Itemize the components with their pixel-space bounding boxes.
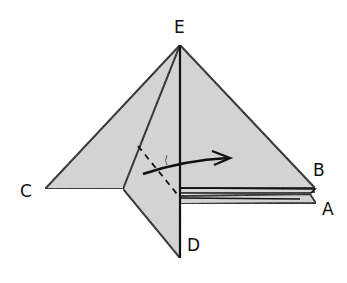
label-c: C — [20, 181, 32, 201]
label-e: E — [174, 17, 185, 37]
label-d: D — [187, 235, 200, 255]
label-b: B — [313, 160, 325, 180]
origami-diagram: E C D B A — [0, 0, 347, 283]
label-a: A — [322, 199, 334, 219]
layer-line-2 — [180, 198, 300, 199]
layer-b-tip — [180, 188, 315, 193]
